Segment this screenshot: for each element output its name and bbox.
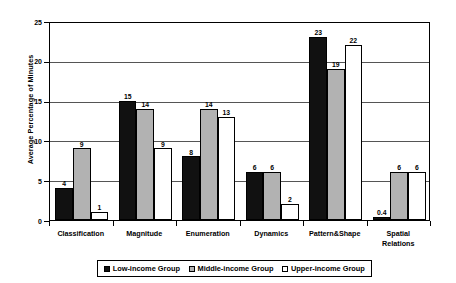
bar-value-label: 0.4	[377, 210, 386, 217]
bar-slot: 19	[327, 22, 345, 220]
x-category-label: Dynamics	[240, 229, 304, 239]
bar-group: 491	[50, 22, 114, 220]
bar: 14	[200, 109, 218, 220]
bar: 0.4	[373, 217, 391, 220]
y-tick-label: 15	[0, 98, 42, 105]
bar: 2	[281, 204, 299, 220]
bar-value-label: 13	[223, 110, 231, 117]
legend-swatch-middle	[189, 266, 195, 272]
bar-slot: 0.4	[373, 22, 391, 220]
bar: 4	[55, 188, 73, 220]
bar: 14	[136, 109, 154, 220]
bar-group: 81413	[177, 22, 241, 220]
bar-slot: 4	[55, 22, 73, 220]
bar-slot: 6	[246, 22, 264, 220]
legend-item: Middle-income Group	[189, 264, 273, 273]
bar: 15	[119, 101, 137, 220]
bar-slot: 15	[119, 22, 137, 220]
bar: 9	[73, 148, 91, 220]
bar-slot: 14	[136, 22, 154, 220]
bar-value-label: 23	[314, 30, 322, 37]
bar-group: 662	[241, 22, 305, 220]
y-tick-label: 20	[0, 58, 42, 65]
legend-swatch-upper	[282, 266, 288, 272]
x-category-label: Magnitude	[113, 229, 177, 239]
bar-slot: 22	[345, 22, 363, 220]
bar-slot: 14	[200, 22, 218, 220]
bar-slot: 1	[91, 22, 109, 220]
x-tick-mark	[240, 221, 241, 226]
bar-value-label: 8	[189, 150, 193, 157]
bar: 8	[182, 156, 200, 220]
bar-chart: Average Percentage of Minutes 2520151050…	[0, 0, 456, 283]
bar-slot: 8	[182, 22, 200, 220]
bar-value-label: 2	[288, 197, 292, 204]
legend-item: Upper-income Group	[282, 264, 364, 273]
bar-value-label: 14	[141, 102, 149, 109]
plot-area: 49115149814136622319220.466	[49, 22, 430, 221]
bar-slot: 9	[154, 22, 172, 220]
bar-slot: 6	[263, 22, 281, 220]
x-tick-mark	[303, 221, 304, 226]
bar-slot: 6	[390, 22, 408, 220]
bar-group: 0.466	[368, 22, 432, 220]
legend-label: Low-income Group	[113, 264, 180, 273]
bar: 6	[390, 172, 408, 220]
legend-swatch-low	[104, 266, 110, 272]
bar-value-label: 19	[332, 62, 340, 69]
y-axis-title: Average Percentage of Minutes	[26, 20, 35, 200]
bar: 9	[154, 148, 172, 220]
x-tick-mark	[367, 221, 368, 226]
x-category-label: Pattern&Shape	[303, 229, 367, 239]
y-tick-label: 25	[0, 19, 42, 26]
bar-slot: 13	[218, 22, 236, 220]
bar-value-label: 9	[80, 142, 84, 149]
bar-slot: 2	[281, 22, 299, 220]
bar-value-label: 9	[161, 142, 165, 149]
bar-value-label: 15	[124, 94, 132, 101]
bar: 6	[246, 172, 264, 220]
legend-label: Upper-income Group	[291, 264, 365, 273]
y-tick-label: 10	[0, 138, 42, 145]
bar: 6	[263, 172, 281, 220]
y-tick-label: 5	[0, 178, 42, 185]
legend-item: Low-income Group	[104, 264, 180, 273]
x-tick-mark	[430, 221, 431, 226]
bar-slot: 6	[408, 22, 426, 220]
y-tick-label: 0	[0, 218, 42, 225]
x-tick-mark	[49, 221, 50, 226]
x-category-label: Spatial Relations	[367, 229, 431, 249]
bar-value-label: 22	[350, 38, 358, 45]
bar-value-label: 14	[205, 102, 213, 109]
bar: 1	[91, 212, 109, 220]
bar: 6	[408, 172, 426, 220]
bar-value-label: 6	[270, 165, 274, 172]
x-tick-mark	[113, 221, 114, 226]
bar: 19	[327, 69, 345, 220]
bar-slot: 9	[73, 22, 91, 220]
bar-group: 15149	[114, 22, 178, 220]
bar-value-label: 6	[253, 165, 257, 172]
x-tick-mark	[176, 221, 177, 226]
legend-label: Middle-income Group	[197, 264, 273, 273]
bar-value-label: 4	[62, 181, 66, 188]
bar-value-label: 6	[415, 165, 419, 172]
bar-slot: 23	[309, 22, 327, 220]
x-category-label: Enumeration	[176, 229, 240, 239]
chart-legend: Low-income GroupMiddle-income GroupUpper…	[97, 260, 372, 277]
bar-group: 231922	[304, 22, 368, 220]
bar: 23	[309, 37, 327, 220]
x-category-label: Classification	[49, 229, 113, 239]
bar: 22	[345, 45, 363, 220]
bar-value-label: 1	[97, 205, 101, 212]
bar: 13	[218, 117, 236, 220]
bar-value-label: 6	[397, 165, 401, 172]
